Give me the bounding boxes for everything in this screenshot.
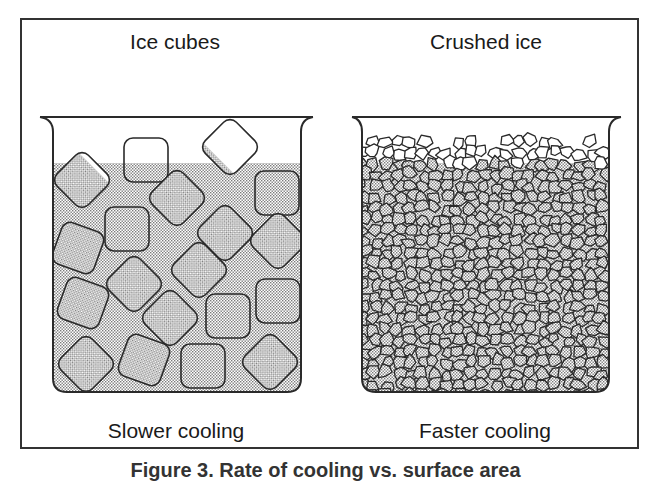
crushed-ice-piece: [354, 179, 365, 189]
crushed-ice-piece: [485, 392, 502, 402]
crushed-ice-piece: [522, 320, 536, 333]
right-panel-title: Crushed ice: [430, 30, 542, 54]
crushed-ice-piece: [415, 389, 429, 399]
ice-cube: [181, 344, 225, 388]
left-panel-subtitle: Slower cooling: [108, 419, 245, 443]
crushed-ice-group: [354, 133, 613, 405]
crushed-ice-piece: [548, 312, 560, 323]
ice-cube: [256, 279, 300, 323]
crushed-ice-piece: [535, 147, 549, 158]
ice-cube: [124, 138, 168, 182]
crushed-ice-piece: [365, 144, 379, 157]
right-panel-subtitle: Faster cooling: [419, 419, 551, 443]
crushed-ice-piece: [475, 145, 486, 156]
crushed-ice-piece: [402, 137, 415, 148]
crushed-ice-piece: [551, 392, 562, 404]
figure-caption: Figure 3. Rate of cooling vs. surface ar…: [0, 459, 651, 482]
crushed-ice-piece: [514, 355, 527, 367]
crushed-ice-piece: [370, 179, 383, 190]
left-beaker: [40, 116, 313, 395]
crushed-ice-piece: [583, 289, 597, 299]
ice-cube: [105, 207, 149, 251]
crushed-ice-piece: [378, 388, 393, 398]
crushed-ice-piece: [395, 271, 405, 281]
crushed-ice-piece: [583, 134, 596, 147]
crushed-ice-piece: [356, 210, 371, 224]
crushed-ice-piece: [451, 346, 464, 357]
crushed-ice-piece: [536, 391, 547, 404]
crushed-ice-piece: [394, 391, 409, 405]
ice-cube: [206, 294, 250, 338]
right-beaker: [352, 117, 621, 405]
crushed-ice-piece: [547, 251, 560, 260]
ice-cube: [255, 171, 299, 215]
crushed-ice-piece: [417, 135, 433, 147]
crushed-ice-piece: [488, 369, 502, 380]
crushed-ice-piece: [415, 148, 429, 160]
crushed-ice-piece: [523, 133, 537, 147]
left-panel-title: Ice cubes: [130, 30, 220, 54]
crushed-ice-piece: [416, 256, 430, 268]
crushed-ice-piece: [564, 337, 575, 346]
crushed-ice-piece: [525, 293, 537, 302]
